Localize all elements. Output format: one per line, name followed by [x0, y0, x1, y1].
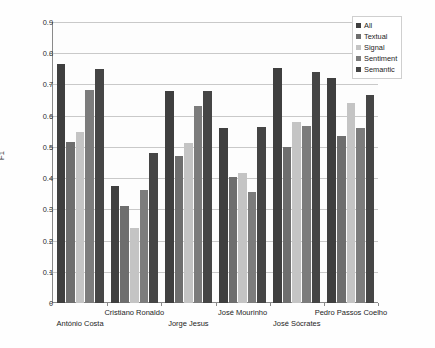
x-axis-tick-mark [270, 303, 271, 306]
x-axis-tick-mark [216, 303, 217, 306]
y-axis-tick-label: 0.5 [13, 143, 53, 152]
bar [165, 91, 174, 303]
legend-swatch-icon [356, 34, 361, 39]
x-axis-label: José Sócrates [273, 319, 321, 328]
bar [130, 228, 139, 303]
bar [248, 192, 257, 303]
bar [229, 177, 238, 303]
bar [203, 91, 212, 303]
chart-legend: AllTextualSignalSentimentSemantic [352, 16, 402, 79]
y-axis-tick-label: 0.9 [13, 18, 53, 27]
y-axis-tick-mark [49, 241, 52, 242]
legend-item-label: Textual [364, 31, 387, 42]
legend-swatch-icon [356, 56, 361, 61]
x-axis-label: José Mourinho [218, 308, 267, 317]
y-axis-tick-mark [49, 147, 52, 148]
bar [347, 103, 356, 303]
x-axis-tick-mark [107, 303, 108, 306]
y-axis-tick-mark [49, 116, 52, 117]
y-axis-tick-mark [49, 272, 52, 273]
bar [219, 128, 228, 303]
y-axis-tick-label: 0.1 [13, 268, 53, 277]
legend-swatch-icon [356, 45, 361, 50]
bar [337, 136, 346, 303]
bar-groups [53, 22, 378, 303]
y-axis-tick-label: 0.8 [13, 49, 53, 58]
legend-swatch-icon [356, 23, 361, 28]
bar [85, 90, 94, 303]
legend-item: Sentiment [356, 53, 397, 64]
y-axis-tick-label: 0.2 [13, 237, 53, 246]
y-axis-tick-mark [49, 53, 52, 54]
bar [366, 95, 375, 303]
bar [95, 69, 104, 303]
x-axis-label: António Costa [57, 319, 104, 328]
legend-item: Semantic [356, 64, 397, 75]
bar [257, 127, 266, 303]
legend-item: All [356, 20, 397, 31]
y-axis-tick-label: 0.6 [13, 112, 53, 121]
legend-swatch-icon [356, 67, 361, 72]
bar [356, 128, 365, 303]
y-axis-tick-mark [49, 84, 52, 85]
bar-group [219, 22, 266, 303]
y-axis-tick-label: 0.4 [13, 174, 53, 183]
bar [194, 106, 203, 303]
bar [111, 186, 120, 303]
y-axis-tick-label: 0.3 [13, 205, 53, 214]
bar [302, 126, 311, 303]
legend-item-label: Sentiment [364, 53, 397, 64]
legend-item-label: All [364, 20, 372, 31]
x-axis-tick-mark [161, 303, 162, 306]
legend-item: Textual [356, 31, 397, 42]
y-axis-tick-mark [49, 178, 52, 179]
y-axis-tick-mark [49, 22, 52, 23]
bar [312, 72, 321, 303]
x-axis-label: Cristiano Ronaldo [104, 308, 164, 317]
bar [184, 143, 193, 303]
bar [292, 122, 301, 303]
bar [273, 68, 282, 303]
bar [140, 190, 149, 303]
x-axis-tick-mark [378, 303, 379, 306]
bar [66, 142, 75, 303]
y-axis-tick-label: 0 [13, 299, 53, 308]
chart-canvas: 0.90.80.70.60.50.40.30.20.10 F1 António … [0, 0, 435, 348]
legend-item-label: Semantic [364, 64, 395, 75]
bar [120, 206, 129, 303]
legend-item-label: Signal [364, 42, 385, 53]
x-axis-label: Jorge Jesus [168, 319, 208, 328]
bar [76, 132, 85, 303]
legend-item: Signal [356, 42, 397, 53]
x-axis-label: Pedro Passos Coelho [315, 308, 388, 317]
bar-group [165, 22, 212, 303]
x-axis-tick-mark [324, 303, 325, 306]
y-axis-tick-mark [49, 303, 52, 304]
bar [57, 64, 66, 303]
bar [238, 173, 247, 303]
y-axis-title: F1 [0, 151, 6, 160]
bar [327, 78, 336, 303]
bar-group [57, 22, 104, 303]
bar-group [273, 22, 320, 303]
bar-group [111, 22, 158, 303]
bar [283, 147, 292, 303]
y-axis-tick-mark [49, 209, 52, 210]
bar [149, 153, 158, 303]
bar [175, 156, 184, 303]
y-axis-tick-label: 0.7 [13, 80, 53, 89]
